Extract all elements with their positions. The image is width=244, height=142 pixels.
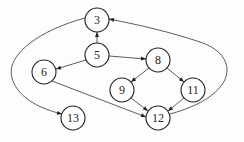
svg-text:13: 13 [67,111,79,125]
node-9: 9 [110,78,134,102]
edge-8-9 [131,68,149,82]
svg-text:3: 3 [94,13,100,27]
svg-text:5: 5 [94,48,100,62]
node-12: 12 [146,106,170,130]
graph-svg: 3 5 6 8 9 11 12 13 [0,0,244,142]
node-6: 6 [32,60,56,84]
edge-8-11 [167,68,184,82]
edge-11-12 [168,98,184,111]
graph-diagram: 3 5 6 8 9 11 12 13 [0,0,244,142]
edge-9-12 [131,98,148,111]
svg-text:12: 12 [152,111,164,125]
node-8: 8 [146,48,170,72]
svg-text:6: 6 [41,65,47,79]
node-11: 11 [181,78,205,102]
node-13: 13 [61,106,85,130]
svg-text:11: 11 [187,83,199,97]
node-3: 3 [85,8,109,32]
edge-5-6 [56,60,86,69]
svg-text:9: 9 [119,83,125,97]
edge-5-8 [109,56,146,59]
node-5: 5 [85,43,109,67]
svg-text:8: 8 [155,53,161,67]
